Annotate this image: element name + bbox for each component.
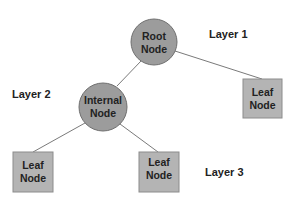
leaf-node-bottom-middle: Leaf Node	[139, 152, 179, 192]
root-node-circle	[131, 19, 177, 65]
edges	[33, 51, 262, 152]
edge-root-internal	[117, 61, 141, 86]
leaf-node-bottom-middle-label-line1: Leaf	[148, 156, 170, 168]
root-node-label-line1: Root	[142, 30, 166, 42]
internal-node-label-line1: Internal	[84, 94, 122, 106]
edge-root-leaf-right	[175, 51, 262, 79]
leaf-node-right-label-line1: Leaf	[252, 86, 274, 98]
leaf-node-right-label-line2: Node	[249, 99, 275, 111]
layer-3-label: Layer 3	[205, 166, 244, 178]
leaf-node-bottom-middle-label-line2: Node	[146, 169, 172, 181]
internal-node-label-line2: Node	[90, 107, 116, 119]
internal-node: Internal Node	[79, 83, 127, 131]
leaf-node-bottom-left-label-line2: Node	[20, 172, 46, 184]
leaf-node-right: Leaf Node	[243, 79, 282, 118]
root-node: Root Node	[131, 19, 177, 65]
tree-diagram: Root Node Internal Node Leaf Node Leaf N…	[0, 0, 297, 204]
edge-internal-leaf-bottom-middle	[120, 124, 158, 152]
layer-1-label: Layer 1	[209, 28, 248, 40]
layer-2-label: Layer 2	[12, 88, 51, 100]
leaf-node-bottom-left: Leaf Node	[13, 152, 53, 192]
leaf-node-bottom-left-label-line1: Leaf	[22, 159, 44, 171]
root-node-label-line2: Node	[141, 43, 167, 55]
edge-internal-leaf-bottom-left	[33, 123, 85, 152]
